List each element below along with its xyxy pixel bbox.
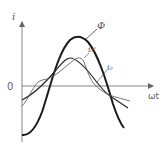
waveform-diagram: i ωt 0 Φ i₀' i₀ (0, 0, 165, 153)
x-axis-label: ωt (148, 91, 160, 101)
phi-label: Φ (97, 20, 105, 31)
y-axis-label: i (12, 11, 15, 22)
i0-prime-label: i₀' (88, 45, 96, 54)
i0-label: i₀ (107, 63, 114, 72)
diagram-canvas: i ωt 0 Φ i₀' i₀ (0, 0, 165, 153)
origin-label: 0 (7, 81, 13, 92)
phi-leader (86, 29, 97, 39)
